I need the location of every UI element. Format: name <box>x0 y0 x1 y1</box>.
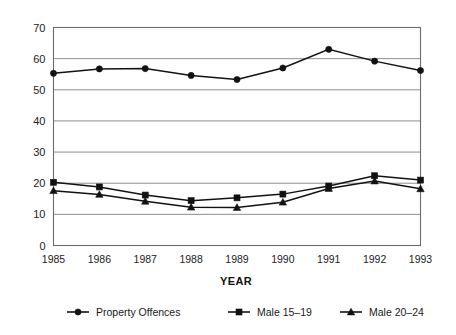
y-tick-label: 10 <box>33 208 45 220</box>
y-tick-label: 20 <box>33 177 45 189</box>
data-point-circle-marker <box>372 58 378 64</box>
x-tick-label: 1987 <box>134 253 158 265</box>
data-point-circle-marker <box>417 67 423 73</box>
series-male-20-24 <box>50 177 424 210</box>
y-tick-label: 70 <box>33 22 45 34</box>
x-tick-label: 1989 <box>225 253 249 265</box>
x-tick-label: 1993 <box>409 253 433 265</box>
y-tick-label: 40 <box>33 115 45 127</box>
y-axis-tick-labels: 010203040506070 <box>33 22 45 252</box>
chart-canvas: 010203040506070 198519861987198819891990… <box>0 0 456 335</box>
series-property-offences <box>50 46 423 82</box>
data-point-circle-marker <box>142 66 148 72</box>
line-chart: 010203040506070 198519861987198819891990… <box>0 0 456 335</box>
x-tick-label: 1988 <box>179 253 203 265</box>
gridlines-group <box>54 28 421 215</box>
x-axis-tick-labels: 198519861987198819891990199119921993 <box>42 253 433 265</box>
data-point-circle-marker <box>188 72 194 78</box>
legend-label: Property Offences <box>96 306 180 318</box>
x-tick-label: 1992 <box>363 253 387 265</box>
data-point-circle-marker <box>280 65 286 71</box>
x-axis-title: YEAR <box>220 275 252 287</box>
data-point-square-marker <box>96 184 102 190</box>
legend-item[interactable]: Male 20–24 <box>340 306 424 318</box>
data-series-group <box>50 46 424 210</box>
x-tick-label: 1986 <box>88 253 112 265</box>
legend-label: Male 15–19 <box>257 306 312 318</box>
data-point-square-marker <box>188 198 194 204</box>
legend-item[interactable]: Property Offences <box>67 306 180 318</box>
data-point-circle-marker <box>234 76 240 82</box>
data-point-square-marker <box>236 309 242 315</box>
data-point-square-marker <box>280 191 286 197</box>
x-tick-label: 1991 <box>317 253 341 265</box>
y-tick-label: 50 <box>33 84 45 96</box>
y-tick-label: 60 <box>33 53 45 65</box>
chart-legend: Property OffencesMale 15–19Male 20–24 <box>67 306 424 318</box>
data-point-square-marker <box>418 177 424 183</box>
plot-area-border <box>54 28 421 246</box>
y-tick-label: 0 <box>39 240 45 252</box>
data-point-square-marker <box>234 195 240 201</box>
legend-item[interactable]: Male 15–19 <box>228 306 312 318</box>
data-point-circle-marker <box>96 66 102 72</box>
data-point-square-marker <box>51 179 57 185</box>
y-tick-label: 30 <box>33 146 45 158</box>
series-male-15-19 <box>51 173 424 204</box>
data-point-circle-marker <box>75 309 81 315</box>
x-tick-label: 1985 <box>42 253 66 265</box>
x-tick-label: 1990 <box>271 253 295 265</box>
data-point-circle-marker <box>326 46 332 52</box>
series-line <box>54 49 421 79</box>
data-point-circle-marker <box>50 70 56 76</box>
legend-label: Male 20–24 <box>369 306 424 318</box>
plot-frame <box>54 28 421 246</box>
